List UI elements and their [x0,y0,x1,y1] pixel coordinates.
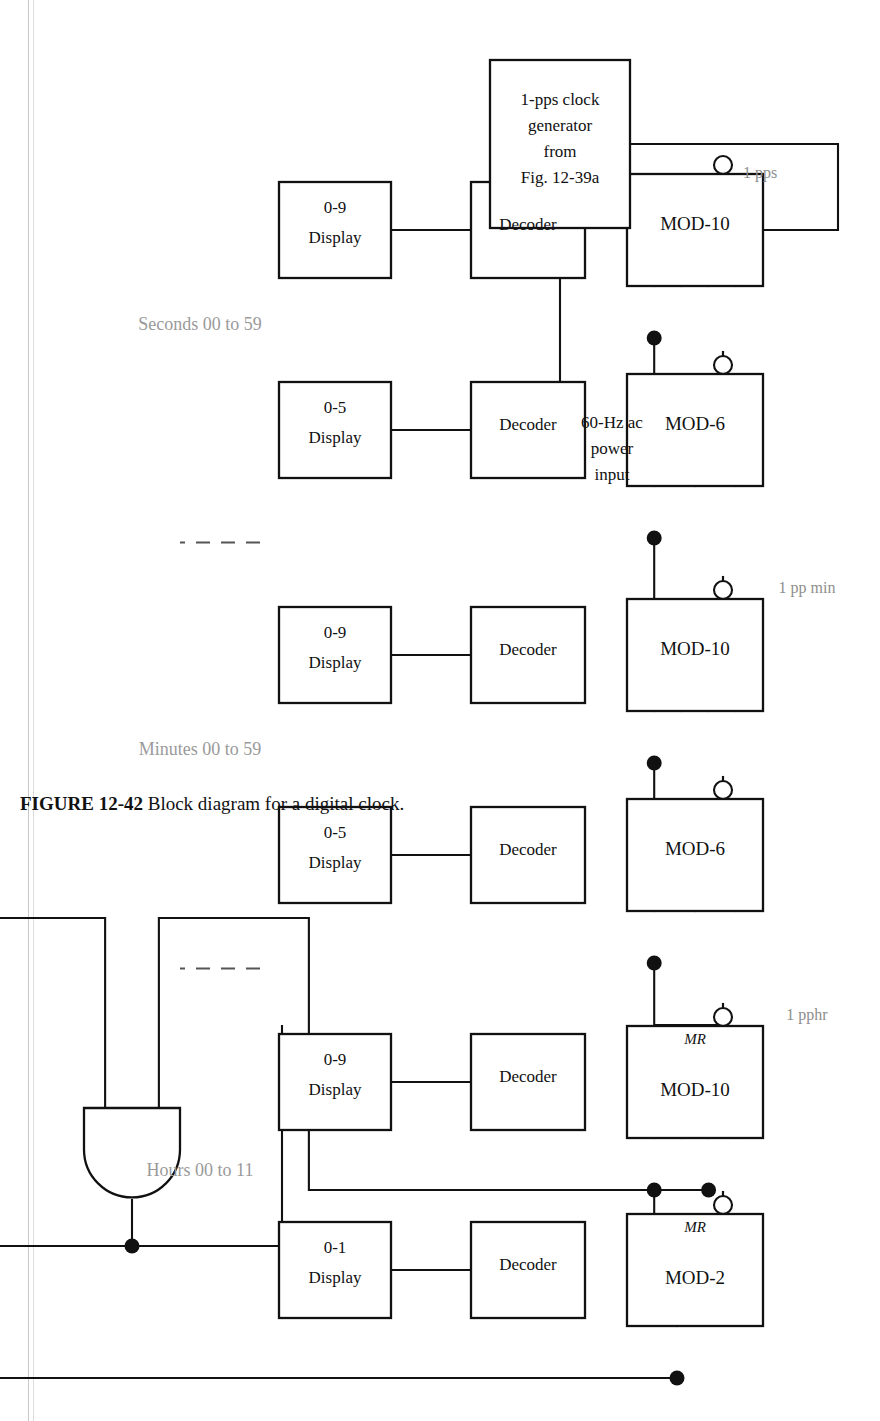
decoder-label-minutes-tens: Decoder [499,840,557,859]
display-word-minutes-tens: Display [309,853,362,872]
decoder-label-minutes-units: Decoder [499,640,557,659]
section-label-minutes: Minutes 00 to 59 [139,739,262,759]
counter-label-minutes-tens: MOD-6 [665,838,725,859]
signal-label-1-pphr: 1 pphr [786,1006,828,1024]
display-word-seconds-units: Display [309,228,362,247]
decoder-label-seconds-tens: Decoder [499,415,557,434]
clock-generator-line-2: from [543,142,576,161]
reset-wire-to-hours-tens-mr [0,1214,132,1246]
clock-generator-line-1: generator [528,116,593,135]
counter-label-hours-tens: MOD-2 [665,1267,725,1288]
block-layer [84,60,763,1326]
clock-bubble-hours-units [714,1008,732,1026]
decoder-label-hours-units: Decoder [499,1067,557,1086]
signal-label-1-pp-min: 1 pp min [779,579,836,597]
section-label-seconds: Seconds 00 to 59 [138,314,262,334]
clock-generator-line-3: Fig. 12-39a [521,168,600,187]
display-range-hours-units: 0-9 [324,1050,347,1069]
and-gate [84,1108,180,1197]
counter-label-hours-units: MOD-10 [660,1079,730,1100]
section-label-hours: Hours 00 to 11 [147,1160,254,1180]
diagram-rotated-container: MOD-10Decoder0-9DisplayMOD-6Decoder0-5Di… [0,0,880,1421]
clock-generator-line-0: 1-pps clock [521,90,600,109]
display-range-hours-tens: 0-1 [324,1238,347,1257]
display-word-hours-units: Display [309,1080,362,1099]
display-range-minutes-tens: 0-5 [324,823,347,842]
counter-label-minutes-units: MOD-10 [660,638,730,659]
clock-bubble-seconds-units [714,156,732,174]
figure-caption-number: FIGURE 12-42 [20,793,148,814]
decoder-label-seconds-units: Decoder [499,215,557,234]
carry-tap-dot-seconds-units [647,331,662,346]
display-word-seconds-tens: Display [309,428,362,447]
carry-tap-dot-hours-units [647,1183,662,1198]
counter-label-seconds-units: MOD-10 [660,213,730,234]
figure-caption: FIGURE 12-42 Block diagram for a digital… [20,793,404,814]
ac-input-label-line-0: 60-Hz ac [581,413,643,432]
mr-label-hours-tens: MR [683,1219,706,1235]
and-gate-output-dot [125,1239,140,1254]
carry-wire-seconds-tens-to-minutes-units [654,538,723,600]
clock-bubble-minutes-units [714,581,732,599]
carry-wire-minutes-tens-to-hours-units [654,963,723,1025]
digital-clock-block-diagram: MOD-10Decoder0-9DisplayMOD-6Decoder0-5Di… [0,0,880,1421]
clock-bubble-seconds-tens [714,356,732,374]
display-word-minutes-units: Display [309,653,362,672]
display-range-seconds-units: 0-9 [324,198,347,217]
clock-bubble-hours-tens [714,1196,732,1214]
signal-label-1-pps: 1 pps [743,164,777,182]
figure-caption-text: Block diagram for a digital clock. [148,793,404,814]
display-range-seconds-tens: 0-5 [324,398,347,417]
mr-label-hours-units: MR [683,1031,706,1047]
display-word-hours-tens: Display [309,1268,362,1287]
ac-input-label-line-1: power [591,439,634,458]
display-range-minutes-units: 0-9 [324,623,347,642]
carry-tap-dot-minutes-tens [647,956,662,971]
ac-input-label-line-2: input [595,465,630,484]
carry-tap-dot-minutes-units [647,756,662,771]
figure-caption-group: FIGURE 12-42 Block diagram for a digital… [20,793,404,814]
carry-tap-dot-seconds-tens [647,531,662,546]
clock-bubble-minutes-tens [714,781,732,799]
and-input-tap-dot-hours-units [701,1183,716,1198]
decoder-label-hours-tens: Decoder [499,1255,557,1274]
figure-page: MOD-10Decoder0-9DisplayMOD-6Decoder0-5Di… [0,0,880,1421]
counter-label-seconds-tens: MOD-6 [665,413,725,434]
and-input-tap-dot-hours-tens [670,1371,685,1386]
